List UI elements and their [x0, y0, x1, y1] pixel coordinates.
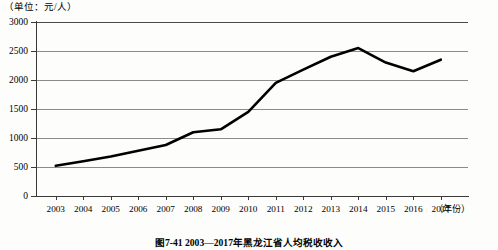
- x-tick-mark-2014: [358, 196, 359, 200]
- x-tick-label-2009: 2009: [212, 204, 230, 215]
- y-tick-label-1000: 1000: [9, 133, 28, 143]
- x-tick-mark-2003: [56, 196, 57, 200]
- figure-caption: 图7-41 2003—2017年黑龙江省人均税收收入: [0, 236, 498, 249]
- x-tick-label-2015: 2015: [377, 204, 395, 215]
- x-tick-mark-2007: [166, 196, 167, 200]
- x-tick-label-2016: 2016: [404, 204, 422, 215]
- x-axis-spine: [36, 196, 469, 197]
- y-tick-label-500: 500: [14, 162, 28, 172]
- x-tick-label-2005: 2005: [102, 204, 120, 215]
- x-tick-label-2003: 2003: [47, 204, 65, 215]
- x-tick-mark-2017: [441, 196, 442, 200]
- x-tick-mark-2012: [303, 196, 304, 200]
- y-tick-mark-0: [31, 196, 36, 197]
- series-polyline: [56, 48, 441, 166]
- x-tick-label-2006: 2006: [129, 204, 147, 215]
- x-tick-label-2008: 2008: [184, 204, 202, 215]
- series-line-chart: [36, 22, 468, 196]
- x-tick-label-2004: 2004: [74, 204, 92, 215]
- y-tick-label-0: 0: [23, 191, 28, 201]
- x-tick-mark-2015: [386, 196, 387, 200]
- x-tick-label-2014: 2014: [349, 204, 367, 215]
- x-tick-mark-2013: [331, 196, 332, 200]
- x-tick-mark-2010: [248, 196, 249, 200]
- y-tick-label-2500: 2500: [9, 46, 28, 56]
- x-tick-mark-2009: [221, 196, 222, 200]
- x-tick-label-2010: 2010: [239, 204, 257, 215]
- x-tick-mark-2005: [111, 196, 112, 200]
- x-tick-mark-2004: [83, 196, 84, 200]
- x-tick-mark-2008: [193, 196, 194, 200]
- y-tick-label-1500: 1500: [9, 104, 28, 114]
- x-tick-label-2013: 2013: [322, 204, 340, 215]
- x-tick-label-2012: 2012: [294, 204, 312, 215]
- unit-label: （单位：元/人）: [4, 1, 77, 13]
- y-tick-label-2000: 2000: [9, 75, 28, 85]
- x-tick-label-2011: 2011: [267, 204, 285, 215]
- x-tick-mark-2016: [413, 196, 414, 200]
- x-tick-label-2007: 2007: [157, 204, 175, 215]
- x-tick-mark-2011: [276, 196, 277, 200]
- x-axis-title: （年份）: [434, 204, 470, 215]
- x-tick-mark-2006: [138, 196, 139, 200]
- y-tick-label-3000: 3000: [9, 17, 28, 27]
- figure-container: （单位：元/人） 3000 2500 2000 1500 1000 500 0 …: [0, 0, 498, 250]
